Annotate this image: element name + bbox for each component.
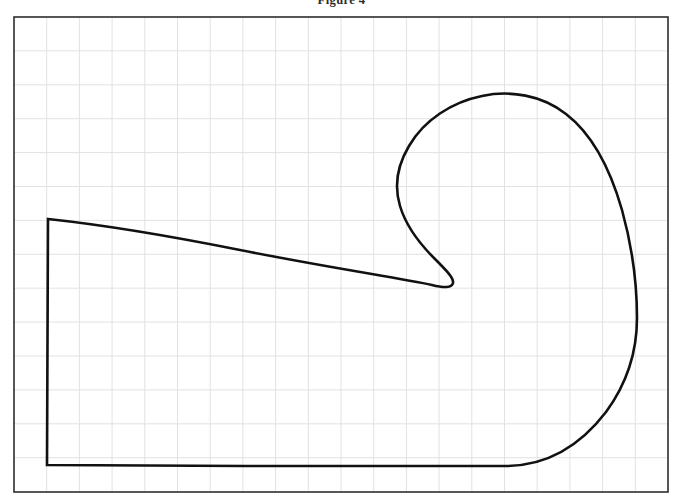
figure-page: Figure 4 <box>0 0 683 502</box>
figure-canvas <box>0 0 683 502</box>
